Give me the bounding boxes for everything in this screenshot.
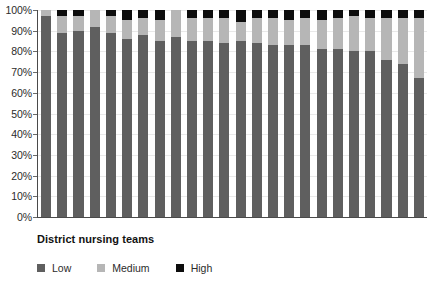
- legend-label: Medium: [112, 262, 149, 274]
- bars-container: [38, 10, 427, 217]
- bar-column: [171, 10, 181, 217]
- bar-segment-high: [268, 10, 278, 18]
- legend-label: Low: [52, 262, 71, 274]
- bar-segment-low: [57, 33, 67, 217]
- bar-segment-medium: [57, 16, 67, 33]
- bar-segment-low: [73, 31, 83, 217]
- bar-segment-low: [203, 41, 213, 217]
- stacked-bar-chart: 100%90%80%70%60%50%40%30%20%10%0% Distri…: [0, 0, 430, 284]
- bar-segment-low: [381, 60, 391, 217]
- y-tick-label: 60%: [11, 87, 32, 99]
- bar-segment-high: [138, 10, 148, 18]
- bar-column: [106, 10, 116, 217]
- legend-item[interactable]: Low: [37, 262, 71, 274]
- bar-segment-medium: [414, 18, 424, 78]
- y-tick-label: 30%: [11, 149, 32, 161]
- bar-segment-medium: [122, 20, 132, 39]
- chart-legend: LowMediumHigh: [37, 260, 238, 276]
- bar-column: [365, 10, 375, 217]
- bar-column: [219, 10, 229, 217]
- bar-segment-high: [317, 10, 327, 20]
- bar-column: [41, 10, 51, 217]
- bar-segment-medium: [284, 20, 294, 45]
- bar-segment-low: [187, 41, 197, 217]
- bar-segment-low: [41, 16, 51, 217]
- bar-segment-low: [138, 35, 148, 217]
- bar-segment-high: [398, 10, 408, 18]
- bar-column: [381, 10, 391, 217]
- bar-segment-high: [414, 10, 424, 18]
- bar-segment-high: [381, 10, 391, 18]
- bar-column: [155, 10, 165, 217]
- bar-column: [73, 10, 83, 217]
- y-tick-label: 20%: [11, 170, 32, 182]
- bar-column: [138, 10, 148, 217]
- bar-column: [414, 10, 424, 217]
- legend-label: High: [191, 262, 213, 274]
- bar-segment-low: [252, 43, 262, 217]
- bar-segment-low: [317, 49, 327, 217]
- bar-segment-medium: [349, 16, 359, 51]
- bar-segment-medium: [300, 18, 310, 45]
- bar-column: [203, 10, 213, 217]
- bar-segment-low: [365, 51, 375, 217]
- bar-segment-medium: [73, 16, 83, 30]
- bar-column: [349, 10, 359, 217]
- bar-column: [317, 10, 327, 217]
- y-tick-label: 90%: [11, 25, 32, 37]
- bar-segment-medium: [106, 16, 116, 33]
- bar-segment-medium: [203, 18, 213, 41]
- bar-column: [333, 10, 343, 217]
- bar-segment-low: [268, 45, 278, 217]
- bar-segment-low: [333, 49, 343, 217]
- bar-column: [268, 10, 278, 217]
- bar-column: [398, 10, 408, 217]
- bar-segment-medium: [268, 18, 278, 45]
- bar-segment-high: [236, 10, 246, 22]
- bar-column: [122, 10, 132, 217]
- chart-caption: District nursing teams: [37, 233, 154, 245]
- y-tick-label: 40%: [11, 128, 32, 140]
- bar-segment-medium: [381, 18, 391, 59]
- bar-segment-medium: [171, 10, 181, 37]
- bar-segment-high: [300, 10, 310, 18]
- legend-swatch-icon: [176, 264, 184, 272]
- legend-item[interactable]: Medium: [97, 262, 149, 274]
- bar-segment-medium: [398, 18, 408, 64]
- bar-segment-low: [219, 43, 229, 217]
- legend-swatch-icon: [97, 264, 105, 272]
- x-axis-line: [37, 217, 427, 218]
- bar-segment-medium: [236, 22, 246, 41]
- bar-segment-medium: [155, 20, 165, 41]
- bar-segment-low: [122, 39, 132, 217]
- bar-segment-high: [333, 10, 343, 18]
- bar-segment-low: [349, 51, 359, 217]
- bar-segment-low: [398, 64, 408, 217]
- bar-segment-medium: [317, 20, 327, 49]
- y-tick-label: 50%: [11, 108, 32, 120]
- bar-segment-high: [252, 10, 262, 18]
- bar-segment-low: [236, 41, 246, 217]
- bar-column: [300, 10, 310, 217]
- y-tick-label: 80%: [11, 45, 32, 57]
- legend-swatch-icon: [37, 264, 45, 272]
- bar-segment-low: [90, 27, 100, 217]
- bar-column: [57, 10, 67, 217]
- bar-segment-medium: [219, 18, 229, 43]
- y-tick-label: 0%: [17, 211, 32, 223]
- legend-item[interactable]: High: [176, 262, 213, 274]
- plot-area: 100%90%80%70%60%50%40%30%20%10%0%: [0, 0, 430, 232]
- bar-segment-low: [300, 45, 310, 217]
- bar-segment-medium: [187, 18, 197, 41]
- bar-column: [252, 10, 262, 217]
- y-tick-label: 100%: [6, 4, 32, 16]
- bar-segment-low: [284, 45, 294, 217]
- bar-segment-low: [155, 41, 165, 217]
- bar-segment-medium: [252, 18, 262, 43]
- bar-segment-medium: [90, 10, 100, 27]
- bar-segment-high: [203, 10, 213, 18]
- y-axis-tick-labels: 100%90%80%70%60%50%40%30%20%10%0%: [0, 0, 36, 232]
- bar-segment-high: [122, 10, 132, 20]
- bar-segment-medium: [333, 18, 343, 49]
- bar-segment-low: [171, 37, 181, 217]
